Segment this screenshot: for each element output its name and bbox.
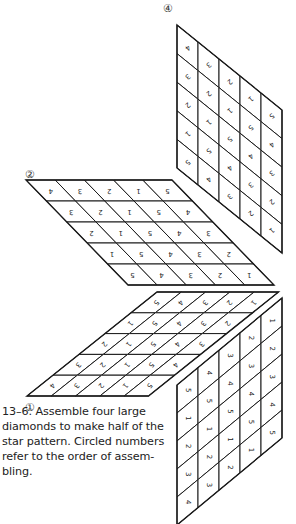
figure-caption: 13–6. Assemble four large diamonds to ma…	[2, 404, 174, 479]
cell-number: 4	[205, 371, 213, 376]
cell-number: 1	[136, 187, 140, 195]
circled-order-label: ④	[163, 2, 173, 15]
cell-number: 2	[205, 455, 213, 459]
cell-number: 3	[184, 472, 192, 476]
cell-number: 4	[184, 500, 192, 505]
caption-line: diamonds to make half of the	[2, 419, 174, 434]
cell-number: 4	[159, 271, 164, 279]
cell-number: 2	[247, 336, 255, 340]
cell-number: 2	[107, 187, 111, 195]
cell-number: 1	[247, 448, 255, 452]
cell-number: 1	[268, 318, 276, 322]
cell-number: 2	[89, 229, 93, 237]
cell-number: 3	[226, 353, 234, 357]
cell-number: 5	[205, 399, 213, 403]
cell-number: 2	[218, 271, 222, 279]
cell-number: 2	[184, 444, 192, 448]
cell-number: 5	[130, 271, 134, 279]
cell-number: 4	[176, 229, 181, 237]
cell-number: 3	[197, 250, 201, 258]
cell-number: 5	[226, 409, 234, 413]
cell-number: 1	[247, 271, 251, 279]
cell-number: 4	[226, 381, 234, 386]
cell-number: 1	[226, 437, 234, 441]
cell-number: 5	[184, 388, 192, 392]
cell-number: 4	[48, 187, 53, 195]
cell-number: 2	[227, 250, 231, 258]
cell-number: 1	[110, 250, 114, 258]
cell-number: 5	[268, 430, 276, 434]
cell-number: 2	[98, 208, 102, 216]
cell-number: 3	[69, 208, 73, 216]
caption-line: 13–6. Assemble four large	[2, 404, 174, 419]
caption-line: bling.	[2, 464, 174, 479]
cell-number: 1	[127, 208, 131, 216]
cell-number: 2	[268, 346, 276, 350]
cell-number: 3	[78, 187, 82, 195]
cell-number: 4	[268, 402, 276, 407]
cell-number: 3	[268, 374, 276, 378]
caption-line: star pattern. Circled numbers	[2, 434, 174, 449]
cell-number: 5	[148, 229, 152, 237]
cell-number: 2	[226, 465, 234, 469]
cell-number: 3	[205, 483, 213, 487]
cell-number: 5	[139, 250, 143, 258]
cell-number: 5	[157, 208, 161, 216]
cell-number: 3	[189, 271, 193, 279]
cell-number: 1	[184, 416, 192, 420]
circled-order-label: ②	[25, 168, 35, 181]
cell-number: 3	[247, 364, 255, 368]
cell-number: 4	[247, 392, 255, 397]
cell-number: 4	[168, 250, 173, 258]
cell-number: 5	[247, 420, 255, 424]
cell-number: 1	[119, 229, 123, 237]
cell-number: 1	[205, 427, 213, 431]
cell-number: 3	[206, 229, 210, 237]
cell-number: 4	[185, 208, 190, 216]
caption-line: refer to the order of assem-	[2, 449, 174, 464]
cell-number: 5	[165, 187, 169, 195]
